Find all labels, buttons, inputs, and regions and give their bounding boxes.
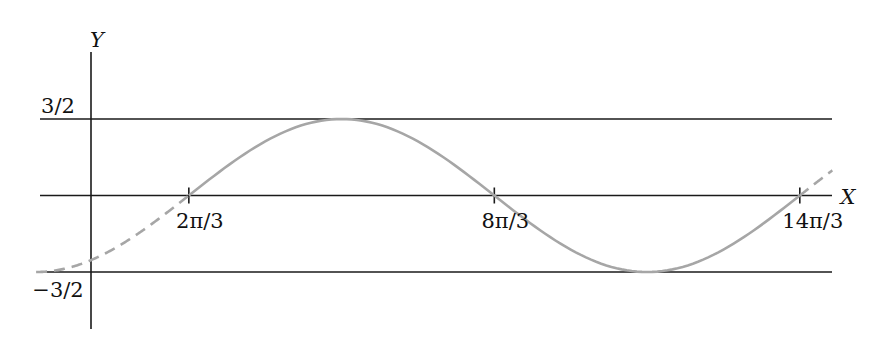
x-tick-label: 8π/3 (482, 209, 530, 233)
curve-dashed-right (800, 170, 833, 195)
x-tick-label: 2π/3 (176, 209, 224, 233)
x-tick-label: 14π/3 (782, 209, 843, 233)
y-tick-label: −3/2 (32, 278, 83, 302)
sine-chart: 2π/38π/314π/33/2−3/2YX (0, 0, 889, 337)
x-axis-label: X (839, 185, 857, 209)
curve-dashed-left (36, 196, 189, 273)
y-tick-label: 3/2 (41, 94, 75, 118)
y-axis-label: Y (90, 28, 106, 52)
